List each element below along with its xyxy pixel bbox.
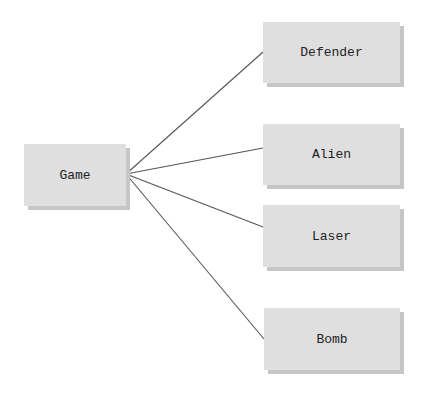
node-alien: Alien bbox=[263, 124, 400, 185]
node-label: Game bbox=[59, 168, 90, 183]
link-alien bbox=[126, 148, 263, 174]
node-laser: Laser bbox=[263, 205, 400, 267]
node-bomb: Bomb bbox=[264, 308, 400, 370]
link-bomb bbox=[126, 174, 264, 339]
node-label: Laser bbox=[312, 229, 351, 244]
link-laser bbox=[126, 174, 263, 227]
diagram-canvas: Game Defender Alien Laser Bomb bbox=[0, 0, 424, 393]
node-label: Bomb bbox=[316, 332, 347, 347]
node-defender: Defender bbox=[263, 22, 400, 83]
node-game: Game bbox=[24, 144, 126, 206]
node-label: Defender bbox=[300, 45, 362, 60]
node-label: Alien bbox=[312, 147, 351, 162]
link-defender bbox=[126, 52, 263, 174]
